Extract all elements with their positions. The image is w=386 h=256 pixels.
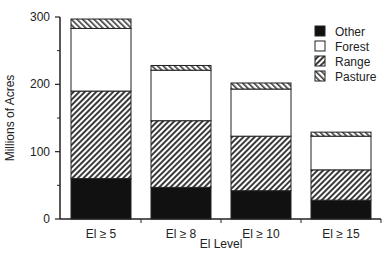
legend-swatch-range [315,56,325,66]
bar-segment-forest [311,136,371,170]
bar-segment-forest [71,28,131,91]
bar-stack [231,83,291,219]
bar-segment-forest [231,89,291,136]
bar-segment-forest [151,70,211,121]
bar-segment-range [151,121,211,188]
bar-segment-other [71,179,131,219]
bar-segment-other [231,191,291,219]
y-tick-label: 300 [30,10,50,24]
legend-label-forest: Forest [335,40,370,54]
legend-label-pasture: Pasture [335,70,377,84]
bar-stack [71,19,131,219]
legend-swatch-pasture [315,71,325,81]
y-tick-label: 200 [30,77,50,91]
x-tick-label: El ≥ 15 [322,227,360,241]
x-tick-label: El ≥ 10 [242,227,280,241]
bar-segment-range [311,170,371,200]
bar-segment-pasture [71,19,131,28]
bar-segment-pasture [151,65,211,70]
y-tick-label: 0 [43,212,50,226]
bar-segment-pasture [311,132,371,136]
bar-stack [151,65,211,219]
bar-segment-other [151,187,211,219]
bar-segment-range [231,136,291,191]
legend-label-other: Other [335,25,365,39]
bar-segment-range [71,91,131,179]
bars-group [71,19,371,219]
legend: OtherForestRangePasture [315,25,377,84]
bar-segment-pasture [231,83,291,89]
x-tick-label: El ≥ 5 [86,227,117,241]
legend-swatch-other [315,26,325,36]
y-axis: 0100200300 [30,10,60,226]
bar-stack [311,132,371,219]
legend-swatch-forest [315,41,325,51]
x-tick-label: El ≥ 8 [166,227,197,241]
bar-segment-other [311,200,371,219]
x-axis-title: El Level [200,237,243,251]
y-axis-title: Millions of Acres [3,75,17,162]
stacked-bar-chart: 0100200300 El ≥ 5El ≥ 8El ≥ 10El ≥ 15 Mi… [0,0,386,256]
y-tick-label: 100 [30,145,50,159]
legend-label-range: Range [335,55,371,69]
